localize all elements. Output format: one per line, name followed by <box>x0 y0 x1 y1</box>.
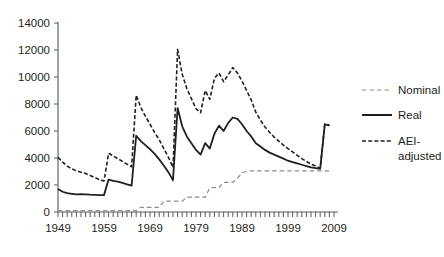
x-tick-label: 1989 <box>229 222 255 234</box>
x-tick-label: 1959 <box>91 222 117 234</box>
y-tick-label: 10000 <box>18 71 50 83</box>
legend-label-continued[interactable]: adjusted <box>398 150 441 162</box>
y-tick-label: 0 <box>44 206 50 218</box>
y-tick-label: 2000 <box>24 179 50 191</box>
legend-label[interactable]: Real <box>398 109 422 121</box>
y-axis-tick-labels: 02000400060008000100001200014000 <box>18 17 50 218</box>
chart-legend: NominalRealAEI-adjusted <box>362 84 441 162</box>
y-axis-group: 02000400060008000100001200014000 <box>18 17 58 218</box>
x-tick-label: 1969 <box>137 222 163 234</box>
chart-container: 02000400060008000100001200014000 1949195… <box>0 0 444 257</box>
legend-label[interactable]: AEI- <box>398 135 421 147</box>
y-tick-label: 4000 <box>24 152 50 164</box>
series-line-real <box>58 108 329 195</box>
series-line-nominal <box>58 171 329 211</box>
y-axis-ticks <box>54 23 58 212</box>
x-axis-group: 1949195919691979198919992009 <box>45 212 347 234</box>
y-tick-label: 8000 <box>24 98 50 110</box>
y-tick-label: 6000 <box>24 125 50 137</box>
y-tick-label: 14000 <box>18 17 50 29</box>
x-axis-minor-ticks <box>58 212 334 217</box>
x-tick-label: 1999 <box>275 222 301 234</box>
x-tick-label: 1949 <box>45 222 71 234</box>
line-chart: 02000400060008000100001200014000 1949195… <box>0 0 444 257</box>
x-axis-tick-labels: 1949195919691979198919992009 <box>45 222 347 234</box>
x-tick-label: 2009 <box>321 222 347 234</box>
x-tick-label: 1979 <box>183 222 209 234</box>
y-tick-label: 12000 <box>18 44 50 56</box>
data-series-group <box>58 49 329 210</box>
legend-label[interactable]: Nominal <box>398 84 440 96</box>
